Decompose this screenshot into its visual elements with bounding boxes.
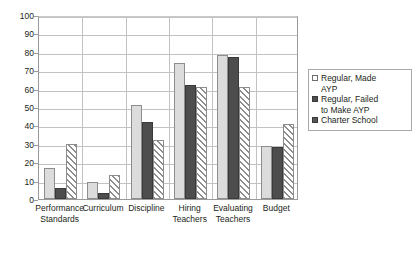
bar: [44, 168, 55, 199]
legend-item-label-line: AYP: [321, 84, 376, 95]
y-axis-tick-label: 20: [4, 159, 34, 168]
legend-item[interactable]: Regular, Failedto Make AYP: [312, 94, 408, 115]
y-axis-tick-label: 0: [4, 196, 34, 205]
y-axis-tick-label: 10: [4, 178, 34, 187]
bar: [196, 87, 207, 199]
y-axis-tick-label: 90: [4, 30, 34, 39]
legend-item-label-line: Regular, Failed: [321, 94, 378, 105]
hatched-swatch: [312, 117, 318, 123]
y-axis: 0102030405060708090100: [0, 16, 34, 200]
bar-group: [212, 17, 255, 199]
dark-gray-swatch: [312, 96, 318, 102]
bar: [283, 124, 294, 199]
bar: [109, 175, 120, 199]
bar: [228, 57, 239, 199]
y-axis-tick-label: 60: [4, 86, 34, 95]
chart-legend: Regular, MadeAYPRegular, Failedto Make A…: [308, 69, 412, 131]
bar-group: [82, 17, 125, 199]
bar: [98, 193, 109, 199]
grouped-bar-chart: 0102030405060708090100 PerformanceStanda…: [0, 0, 420, 266]
y-axis-tick-mark: [34, 200, 38, 201]
bar: [142, 122, 153, 199]
legend-item-label: Charter School: [321, 115, 378, 126]
bar: [87, 182, 98, 199]
x-axis-labels: PerformanceStandardsCurriculumDiscipline…: [38, 203, 298, 243]
y-axis-tick-label: 70: [4, 67, 34, 76]
bars-layer: [39, 17, 297, 199]
x-axis-label-line: Teachers: [205, 214, 260, 225]
bar-group: [256, 17, 299, 199]
plot-area: [38, 16, 298, 200]
y-axis-tick-label: 80: [4, 49, 34, 58]
bar: [272, 147, 283, 199]
x-axis-label: Budget: [249, 203, 304, 214]
legend-item-label: Regular, Failedto Make AYP: [321, 94, 378, 115]
y-axis-tick-label: 40: [4, 122, 34, 131]
bar-group: [126, 17, 169, 199]
light-gray-swatch: [312, 75, 318, 81]
legend-item-label-line: Charter School: [321, 115, 378, 126]
y-axis-tick-label: 30: [4, 141, 34, 150]
bar: [185, 85, 196, 199]
bar: [66, 144, 77, 199]
legend-item-label-line: to Make AYP: [321, 105, 378, 116]
y-axis-tick-label: 100: [4, 12, 34, 21]
y-axis-tick-label: 50: [4, 104, 34, 113]
bar: [174, 63, 185, 199]
x-axis-label-line: Budget: [249, 203, 304, 214]
bar: [239, 87, 250, 199]
x-axis-label-line: Standards: [32, 214, 87, 225]
legend-item[interactable]: Charter School: [312, 115, 408, 126]
bar: [153, 140, 164, 199]
legend-item-label-line: Regular, Made: [321, 73, 376, 84]
bar: [131, 105, 142, 199]
bar: [217, 55, 228, 199]
legend-item-label: Regular, MadeAYP: [321, 73, 376, 94]
bar: [55, 188, 66, 199]
bar-group: [39, 17, 82, 199]
legend-item[interactable]: Regular, MadeAYP: [312, 73, 408, 94]
bar: [261, 146, 272, 199]
bar-group: [169, 17, 212, 199]
